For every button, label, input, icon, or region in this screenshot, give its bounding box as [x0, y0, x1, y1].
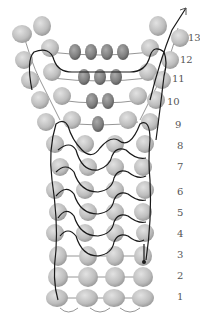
- bead: [31, 91, 49, 109]
- row-label-6: 6: [177, 187, 183, 197]
- bead: [46, 181, 64, 199]
- bead: [106, 135, 124, 153]
- bead: [33, 16, 51, 36]
- bead: [106, 158, 124, 176]
- bead: [46, 135, 64, 153]
- bead: [136, 135, 154, 153]
- row-label-4: 4: [177, 229, 183, 239]
- row-label-8: 8: [177, 141, 183, 151]
- bead: [37, 113, 55, 131]
- bead: [48, 267, 68, 287]
- bead: [63, 111, 81, 129]
- bead: [76, 289, 98, 307]
- bead: [43, 63, 61, 81]
- bead: [53, 87, 71, 105]
- bead: [105, 267, 125, 287]
- thread-start-dot: [142, 260, 146, 264]
- bead-group-tube: [46, 135, 154, 242]
- bead: [106, 203, 124, 221]
- bead: [49, 246, 67, 266]
- bead: [41, 39, 59, 57]
- dark-bead: [69, 44, 81, 60]
- dark-bead: [86, 93, 98, 109]
- bead: [141, 113, 159, 131]
- bead: [149, 16, 167, 36]
- bead: [12, 25, 32, 43]
- bead: [129, 87, 147, 105]
- row-label-9: 9: [175, 120, 181, 130]
- bead: [78, 267, 98, 287]
- bead: [103, 289, 125, 307]
- bead: [79, 158, 97, 176]
- bead: [132, 289, 154, 307]
- bead: [134, 203, 152, 221]
- row-label-5: 5: [177, 208, 183, 218]
- row-label-3: 3: [177, 250, 183, 260]
- bead: [106, 246, 124, 266]
- bead: [76, 181, 94, 199]
- bead: [133, 267, 153, 287]
- dark-bead: [85, 44, 97, 60]
- dark-bead: [117, 44, 129, 60]
- row-label-2: 2: [177, 271, 183, 281]
- row-label-7: 7: [177, 162, 183, 172]
- row-label-10: 10: [167, 97, 180, 107]
- dark-bead: [92, 116, 104, 132]
- bead: [136, 224, 154, 242]
- bead: [46, 224, 64, 242]
- row-label-11: 11: [172, 74, 185, 84]
- bead: [136, 181, 154, 199]
- row-label-12: 12: [180, 55, 193, 65]
- dark-bead: [101, 44, 113, 60]
- bead-pattern-diagram: [0, 0, 200, 321]
- bead: [171, 29, 189, 47]
- bead: [106, 181, 124, 199]
- dark-bead: [102, 93, 114, 109]
- bead: [119, 111, 137, 129]
- bead: [76, 135, 94, 153]
- row-label-1: 1: [177, 292, 183, 302]
- row-label-13: 13: [188, 33, 200, 43]
